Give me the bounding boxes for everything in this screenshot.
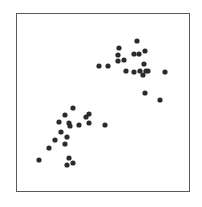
- data-point: [62, 112, 67, 117]
- data-point: [64, 162, 69, 167]
- data-point: [96, 63, 101, 68]
- data-point: [142, 48, 147, 53]
- scatter-plot: [0, 0, 202, 207]
- data-point: [46, 145, 51, 150]
- data-point: [83, 114, 88, 119]
- data-point: [121, 57, 126, 62]
- data-point: [131, 69, 136, 74]
- data-point: [102, 122, 107, 127]
- data-point: [76, 122, 81, 127]
- data-point: [162, 69, 167, 74]
- data-point: [86, 120, 91, 125]
- data-point: [64, 134, 69, 139]
- data-point: [115, 52, 120, 57]
- data-points: [36, 38, 167, 167]
- data-point: [123, 68, 128, 73]
- data-point: [134, 38, 139, 43]
- data-point: [70, 160, 75, 165]
- data-point: [157, 97, 162, 102]
- data-point: [136, 51, 141, 56]
- data-point: [36, 157, 41, 162]
- data-point: [145, 68, 150, 73]
- data-point: [67, 123, 72, 128]
- data-point: [105, 63, 110, 68]
- data-point: [142, 90, 147, 95]
- data-point: [115, 58, 120, 63]
- data-point: [52, 137, 57, 142]
- data-point: [141, 61, 146, 66]
- plot-frame: [17, 14, 190, 192]
- data-point: [70, 105, 75, 110]
- data-point: [131, 51, 136, 56]
- data-point: [62, 141, 67, 146]
- data-point: [116, 45, 121, 50]
- data-point: [56, 119, 61, 124]
- data-point: [58, 129, 63, 134]
- data-point: [66, 155, 71, 160]
